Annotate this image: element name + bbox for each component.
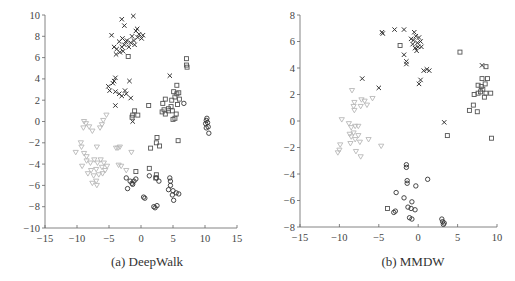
data-point-triangle: [119, 164, 124, 168]
data-point-circle: [182, 101, 186, 105]
y-tick-label: −2: [29, 137, 40, 148]
caption-deepwalk: (a) DeepWalk: [111, 254, 184, 269]
data-point-square: [467, 108, 471, 112]
data-point-x: [117, 39, 121, 43]
data-point-square: [147, 104, 151, 108]
data-point-circle: [170, 193, 174, 197]
data-point-circle: [413, 208, 417, 212]
data-point-triangle: [83, 122, 88, 126]
y-tick-label: −2: [284, 142, 295, 153]
data-point-triangle: [99, 123, 104, 127]
data-point-triangle: [370, 96, 375, 100]
y-tick-label: −10: [24, 223, 40, 234]
x-tick-label: 5: [455, 232, 460, 243]
x-tick-label: 0: [416, 232, 421, 243]
data-point-triangle: [85, 172, 90, 176]
data-point-square: [398, 43, 402, 47]
data-point-triangle: [352, 108, 357, 112]
data-point-triangle: [90, 129, 95, 133]
data-point-triangle: [358, 155, 363, 159]
data-point-circle: [425, 177, 429, 181]
data-point-triangle: [358, 104, 363, 108]
y-tick-label: 2: [35, 95, 40, 106]
data-point-square: [445, 134, 449, 138]
caption-mmdw: (b) MMDW: [381, 254, 445, 269]
data-point-x: [129, 96, 133, 100]
series-class-square: [126, 55, 189, 180]
data-point-x: [107, 88, 111, 92]
data-point-circle: [207, 131, 211, 135]
data-point-square: [184, 57, 188, 61]
data-point-triangle: [80, 164, 85, 168]
y-tick-label: 2: [290, 89, 295, 100]
y-tick-label: −4: [284, 169, 296, 180]
series-class-circle: [392, 163, 447, 227]
y-tick-label: 0: [290, 116, 295, 127]
data-point-x: [120, 45, 124, 49]
data-point-triangle: [339, 118, 344, 122]
data-point-x: [442, 120, 446, 124]
data-point-x: [130, 119, 134, 123]
data-point-triangle: [73, 150, 78, 154]
data-point-triangle: [99, 165, 104, 169]
data-point-x: [418, 78, 422, 82]
data-point-square: [483, 82, 487, 86]
y-tick-label: −8: [29, 201, 40, 212]
data-point-circle: [143, 196, 147, 200]
plot-deepwalk: −10−8−6−4−20246810−15−10−5051015: [24, 10, 243, 245]
y-tick-label: −4: [29, 159, 41, 170]
data-point-triangle: [88, 168, 93, 172]
data-point-triangle: [98, 158, 103, 162]
data-point-triangle: [349, 89, 354, 93]
data-point-circle: [414, 184, 418, 188]
data-point-triangle: [104, 113, 109, 117]
data-point-square: [482, 95, 486, 99]
data-point-x: [120, 94, 124, 98]
y-tick-label: 4: [35, 73, 41, 84]
data-point-x: [127, 45, 131, 49]
x-tick-label: 5: [170, 233, 175, 244]
data-point-triangle: [349, 126, 354, 130]
data-point-triangle: [364, 103, 369, 107]
data-point-x: [132, 43, 136, 47]
data-point-square: [471, 103, 475, 107]
data-point-triangle: [129, 150, 134, 154]
data-point-triangle: [353, 149, 358, 153]
y-tick-label: 0: [35, 116, 40, 127]
y-tick-label: 10: [30, 10, 41, 21]
data-point-circle: [402, 196, 406, 200]
data-point-triangle: [81, 126, 86, 130]
data-point-square: [133, 109, 137, 113]
y-tick-label: 6: [35, 52, 40, 63]
data-point-square: [458, 50, 462, 54]
data-point-circle: [157, 179, 161, 183]
data-point-x: [404, 62, 408, 66]
data-point-x: [360, 76, 364, 80]
data-point-triangle: [356, 124, 361, 128]
data-point-x: [130, 34, 134, 38]
data-point-triangle: [335, 151, 340, 155]
data-point-square: [147, 166, 151, 170]
data-point-x: [109, 33, 113, 37]
data-point-square: [175, 102, 179, 106]
data-point-triangle: [366, 138, 371, 142]
data-point-circle: [168, 183, 172, 187]
x-tick-label: −10: [69, 233, 85, 244]
data-point-triangle: [94, 145, 99, 149]
data-point-circle: [125, 186, 129, 190]
data-point-x: [113, 89, 117, 93]
data-point-square: [475, 110, 479, 114]
data-point-triangle: [88, 161, 93, 165]
data-point-x: [402, 53, 406, 57]
series-class-square: [385, 43, 493, 210]
y-tick-label: −8: [284, 222, 295, 233]
data-point-x: [112, 45, 116, 49]
data-point-square: [484, 65, 488, 69]
data-point-square: [136, 113, 140, 117]
data-point-triangle: [94, 183, 99, 187]
y-tick-label: 4: [290, 63, 296, 74]
series-class-triangle: [335, 89, 384, 160]
y-tick-label: 6: [290, 36, 295, 47]
data-point-circle: [124, 176, 128, 180]
x-tick-label: 0: [138, 233, 143, 244]
